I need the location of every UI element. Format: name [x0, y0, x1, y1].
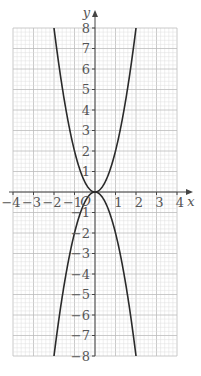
y-tick-label: −2 — [71, 226, 90, 241]
y-axis-title: y — [82, 5, 91, 20]
chart: 87654321−1−2−3−4−5−6−7−8−4−3−2−11234Oxy — [0, 0, 201, 376]
y-tick-label: −5 — [71, 287, 90, 302]
axes — [9, 10, 193, 356]
x-axis-title: x — [187, 194, 195, 209]
y-tick-label: 5 — [82, 82, 90, 97]
y-tick-label: −3 — [71, 246, 90, 261]
x-tick-label: −4 — [1, 195, 20, 210]
x-tick-label: −3 — [22, 195, 41, 210]
y-tick-label: −4 — [71, 267, 90, 282]
origin-label: O — [80, 194, 91, 209]
x-tick-label: 4 — [176, 195, 184, 210]
y-tick-label: −7 — [71, 328, 90, 343]
y-tick-label: 3 — [82, 123, 90, 138]
x-tick-label: 3 — [155, 195, 163, 210]
tick-labels: 87654321−1−2−3−4−5−6−7−8−4−3−2−11234Oxy — [1, 5, 195, 364]
y-axis-arrow-icon — [92, 10, 98, 17]
y-tick-label: −8 — [71, 349, 90, 364]
y-tick-label: 2 — [82, 144, 90, 159]
y-tick-label: 4 — [82, 103, 90, 118]
y-tick-label: −6 — [71, 308, 90, 323]
x-tick-label: −2 — [42, 195, 61, 210]
y-tick-label: 6 — [82, 62, 90, 77]
x-tick-label: 2 — [135, 195, 143, 210]
y-tick-label: 1 — [82, 164, 90, 179]
x-tick-label: −1 — [63, 195, 82, 210]
y-tick-label: 8 — [82, 21, 90, 36]
y-tick-label: 7 — [82, 41, 90, 56]
x-tick-label: 1 — [114, 195, 122, 210]
